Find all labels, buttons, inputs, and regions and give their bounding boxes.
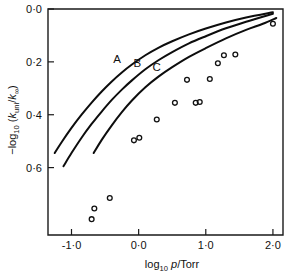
y-tick-label-1: 0·2 [26,56,42,68]
x-axis-title-prefix: log [145,258,160,270]
y-tick-label-0: 0·0 [26,3,42,15]
x-axis-title-var: p [168,258,177,270]
falloff-curve-plot: -1·00·01·02·0 0·00·20·40·6 ABC log10 p/T… [0,0,295,275]
chart-figure: -1·00·01·02·0 0·00·20·40·6 ABC log10 p/T… [0,0,295,275]
y-axis-title-k-uni-sub: uni [12,103,21,113]
plot-background [0,0,295,275]
curve-label-b: B [133,57,141,69]
x-axis-title-sub: 10 [160,264,168,273]
y-tick-label-3: 0·6 [26,162,42,174]
curve-label-a: A [113,53,121,65]
y-axis-title-sub1: 10 [12,125,21,133]
curve-label-c: C [153,61,161,73]
x-tick-label-1: 0·0 [131,239,147,251]
x-tick-label-0: -1·0 [62,239,82,251]
x-tick-label-3: 2·0 [265,239,281,251]
x-axis-title-unit: /Torr [177,258,199,270]
y-axis-title-prefix: −log [6,134,18,155]
y-tick-label-2: 0·4 [26,109,42,121]
y-axis-title-close: ) [6,85,18,89]
x-tick-label-2: 1·0 [198,239,214,251]
